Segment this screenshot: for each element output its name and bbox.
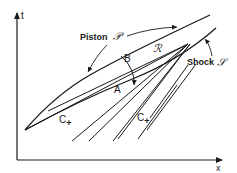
shock-label: Shock: [187, 57, 215, 67]
c-plus-characteristic: [147, 64, 196, 130]
c-plus-label-right: C+: [137, 112, 150, 126]
point-a-label: A: [114, 84, 121, 95]
c-plus-characteristic: [150, 65, 188, 118]
x-axis-label: x: [216, 163, 221, 173]
region-label: ℛ: [153, 42, 163, 55]
point-b-label: B: [124, 53, 131, 64]
shock-symbol: 𝒮: [217, 56, 229, 69]
characteristic-diagram: t x Piston 𝒫 ℛ B A Shock 𝒮 C+ C+: [0, 0, 237, 173]
t-axis-label: t: [21, 10, 24, 21]
c-plus-characteristic: [89, 44, 188, 141]
shock-pointer: [205, 39, 212, 56]
piston-pointer: [88, 45, 107, 72]
c-plus-characteristic: [25, 44, 188, 130]
piston-symbol: 𝒫: [113, 30, 124, 43]
piston-label: Piston: [80, 32, 108, 42]
c-plus-label-left: C+: [59, 114, 72, 128]
c-plus-characteristic: [48, 44, 188, 111]
